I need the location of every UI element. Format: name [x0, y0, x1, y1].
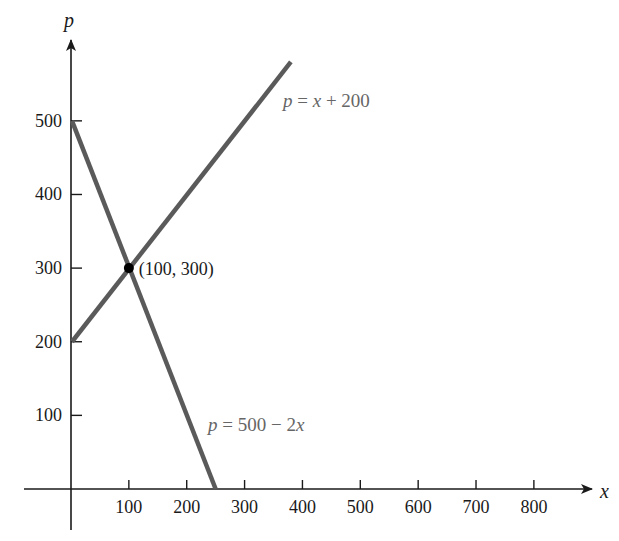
- chart: xp10020030040050060070080010020030040050…: [0, 0, 619, 541]
- axes: [24, 40, 592, 530]
- x-tick-label: 600: [405, 497, 432, 517]
- intersection-label: (100, 300): [139, 259, 214, 280]
- x-ticks: 100200300400500600700800: [115, 480, 547, 517]
- y-axis-label: p: [62, 9, 74, 32]
- y-tick-label: 400: [35, 184, 62, 204]
- y-tick-label: 500: [35, 111, 62, 131]
- equation-label-demand: p = 500 − 2x: [206, 414, 305, 435]
- x-tick-label: 100: [115, 497, 142, 517]
- x-tick-label: 700: [463, 497, 490, 517]
- y-tick-label: 100: [35, 405, 62, 425]
- x-tick-label: 300: [231, 497, 258, 517]
- equation-label-supply: p = x + 200: [281, 90, 370, 111]
- intersection-point: [124, 263, 134, 273]
- x-tick-label: 400: [289, 497, 316, 517]
- line-p-equals-500-minus-2x: [72, 121, 216, 489]
- y-ticks: 100200300400500: [35, 111, 82, 426]
- x-tick-label: 800: [520, 497, 547, 517]
- x-axis-label: x: [599, 480, 609, 502]
- x-tick-label: 200: [173, 497, 200, 517]
- y-tick-label: 200: [35, 332, 62, 352]
- y-tick-label: 300: [35, 258, 62, 278]
- x-tick-label: 500: [347, 497, 374, 517]
